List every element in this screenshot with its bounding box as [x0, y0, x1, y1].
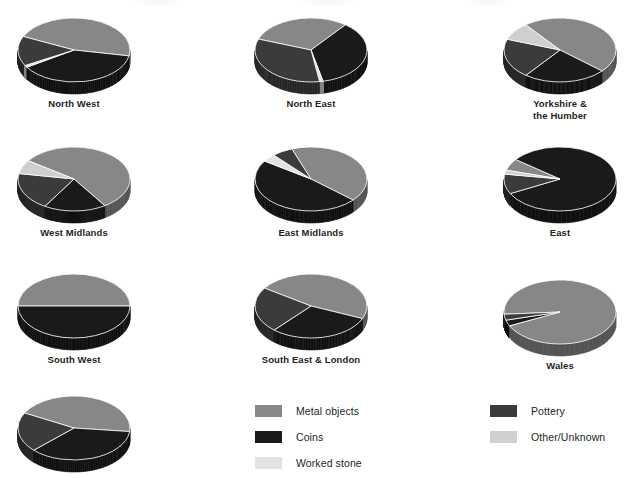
- pie-slices: [14, 268, 134, 354]
- pie-chart-yorkshire-the-humber: Yorkshire & the Humber: [500, 12, 620, 98]
- pie-chart-north-east: North East: [251, 12, 371, 98]
- legend: Metal objectsCoinsWorked stone PotteryOt…: [255, 398, 632, 460]
- legend-item: Coins: [255, 424, 362, 450]
- legend-column-left: Metal objectsCoinsWorked stone: [255, 398, 362, 476]
- legend-item: Pottery: [490, 398, 605, 424]
- pie-graphic: South East & London: [251, 268, 371, 354]
- cropped-title-artifact: [130, 0, 510, 5]
- pie-graphic: North West: [14, 12, 134, 98]
- pie-graphic: South West: [14, 268, 134, 354]
- pie-chart-south-west: South West: [14, 268, 134, 354]
- pie-graphic: Wales: [500, 274, 620, 360]
- pie-chart-label: South West: [47, 354, 100, 366]
- pie-graphic: Yorkshire & the Humber: [500, 12, 620, 98]
- pie-chart-south-east-london: South East & London: [251, 268, 371, 354]
- pie-chart-label: North West: [48, 98, 100, 110]
- pie-slices: [251, 141, 371, 227]
- legend-item: Worked stone: [255, 450, 362, 476]
- pie-graphic: East Midlands: [251, 141, 371, 227]
- pie-slices: [251, 12, 371, 98]
- legend-label: Metal objects: [296, 405, 359, 417]
- pie-slices: [14, 12, 134, 98]
- legend-swatch-other-unknown: [490, 431, 517, 443]
- pie-chart-label: South East & London: [262, 354, 360, 366]
- pie-chart-unlabelled: [14, 390, 134, 476]
- pie-slices: [500, 274, 620, 360]
- pie-chart-west-midlands: West Midlands: [14, 141, 134, 227]
- pie-chart-east-midlands: East Midlands: [251, 141, 371, 227]
- pie-chart-label: Wales: [546, 360, 574, 372]
- legend-item: Other/Unknown: [490, 424, 605, 450]
- legend-swatch-pottery: [490, 405, 517, 417]
- pie-chart-label: Yorkshire & the Humber: [533, 98, 587, 121]
- pie-slices: [500, 141, 620, 227]
- pie-graphic: North East: [251, 12, 371, 98]
- legend-swatch-worked-stone: [255, 457, 282, 469]
- legend-label: Pottery: [531, 405, 565, 417]
- legend-column-right: PotteryOther/Unknown: [490, 398, 605, 450]
- pie-chart-label: East Midlands: [278, 227, 343, 239]
- legend-item: Metal objects: [255, 398, 362, 424]
- pie-graphic: West Midlands: [14, 141, 134, 227]
- legend-label: Coins: [296, 431, 323, 443]
- pie-graphic: [14, 390, 134, 476]
- legend-label: Worked stone: [296, 457, 362, 469]
- legend-swatch-metal-objects: [255, 405, 282, 417]
- legend-swatch-coins: [255, 431, 282, 443]
- pie-slices: [14, 141, 134, 227]
- legend-label: Other/Unknown: [531, 431, 605, 443]
- pie-chart-wales: Wales: [500, 274, 620, 360]
- pie-chart-north-west: North West: [14, 12, 134, 98]
- pie-chart-label: East: [550, 227, 570, 239]
- pie-graphic: East: [500, 141, 620, 227]
- pie-chart-label: West Midlands: [40, 227, 108, 239]
- pie-slices: [500, 12, 620, 98]
- pie-slices: [251, 268, 371, 354]
- pie-chart-figure: North WestNorth EastYorkshire & the Humb…: [0, 0, 632, 478]
- pie-chart-label: North East: [286, 98, 335, 110]
- pie-chart-east: East: [500, 141, 620, 227]
- pie-slices: [14, 390, 134, 476]
